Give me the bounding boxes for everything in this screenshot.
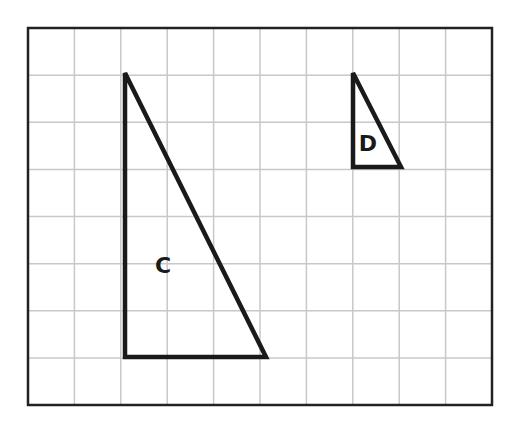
triangle-d-label: D (359, 131, 377, 156)
triangle-c (125, 73, 266, 357)
triangle-c-label: C (155, 253, 171, 278)
grid-figure: C D (0, 0, 518, 422)
